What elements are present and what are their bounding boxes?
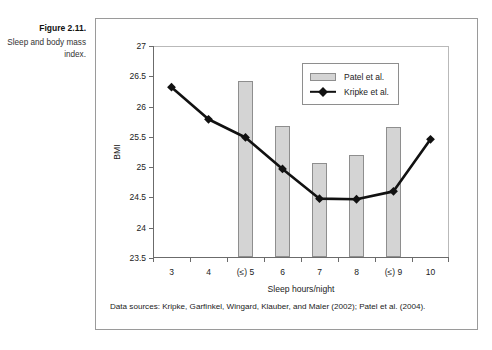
- x-axis-tick-label: 6: [280, 267, 285, 277]
- x-axis-tick-label: 4: [206, 267, 211, 277]
- y-axis-tick-label: 25.5: [129, 132, 146, 142]
- x-axis-tick-label: (≤) 5: [237, 267, 254, 277]
- y-axis-tick-label: 26.5: [129, 71, 146, 81]
- legend-item-patel: Patel et al.: [310, 69, 389, 84]
- y-axis-tick-label: 25: [137, 162, 146, 172]
- figure-caption-title: Figure 2.11.: [6, 22, 86, 34]
- x-axis-tick-label: 8: [354, 267, 359, 277]
- legend-label-kripke: Kripke et al.: [344, 87, 389, 97]
- legend-line-diamond-icon: [310, 86, 336, 98]
- figure-frame: 23.52424.52525.52626.527 34(≤) 5678(≤) 9…: [95, 18, 478, 330]
- chart-plot-area: 23.52424.52525.52626.527 34(≤) 5678(≤) 9…: [153, 46, 449, 258]
- y-axis-tick-label: 27: [137, 41, 146, 51]
- figure-caption-text: Sleep and body mass index.: [6, 37, 86, 61]
- x-axis-tick-label: (≤) 9: [385, 267, 402, 277]
- legend-bar-swatch-icon: [310, 73, 336, 81]
- x-axis-tick-label: 10: [426, 267, 435, 277]
- y-axis-tick-label: 24: [137, 223, 146, 233]
- line-series-kripke: [153, 46, 449, 258]
- y-axis-tick-label: 26: [137, 102, 146, 112]
- x-axis-tick-label: 7: [317, 267, 322, 277]
- legend-label-patel: Patel et al.: [344, 72, 384, 82]
- y-axis-title: BMI: [112, 144, 122, 159]
- chart-legend: Patel et al. Kripke et al.: [302, 63, 399, 105]
- legend-item-kripke: Kripke et al.: [310, 84, 389, 99]
- y-axis-tick-label: 24.5: [129, 192, 146, 202]
- figure-caption: Figure 2.11. Sleep and body mass index.: [6, 22, 86, 61]
- x-axis-title: Sleep hours/night: [153, 284, 449, 294]
- line-marker-diamond: [352, 195, 361, 204]
- y-axis-tick-label: 23.5: [129, 253, 146, 263]
- data-source-note: Data sources: Kripke, Garfinkel, Wingard…: [110, 302, 425, 311]
- x-axis-tick-label: 3: [169, 267, 174, 277]
